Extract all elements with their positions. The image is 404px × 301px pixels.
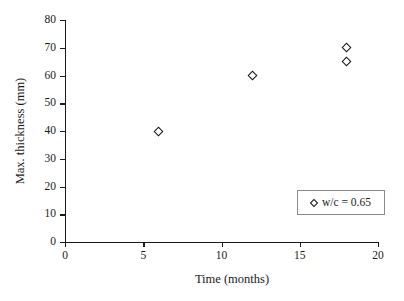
y-tick-label: 30 xyxy=(45,153,57,165)
x-tick-mark xyxy=(143,242,144,247)
y-axis-line xyxy=(65,20,66,243)
open-diamond-marker xyxy=(310,198,318,206)
y-tick-mark xyxy=(60,20,65,21)
x-tick-label: 0 xyxy=(62,250,68,262)
y-tick-label: 60 xyxy=(45,70,57,82)
y-tick-label: 10 xyxy=(45,209,57,221)
x-tick-mark xyxy=(300,242,301,247)
x-tick-label: 5 xyxy=(140,250,146,262)
data-point xyxy=(154,126,164,136)
y-tick-mark xyxy=(60,159,65,160)
y-tick-label: 50 xyxy=(45,98,57,110)
y-tick-mark xyxy=(60,103,65,104)
x-tick-label: 15 xyxy=(294,250,306,262)
y-tick-mark xyxy=(60,48,65,49)
data-point xyxy=(342,57,352,67)
x-tick-mark xyxy=(378,242,379,247)
x-axis-title: Time (months) xyxy=(0,272,404,287)
chart-legend: w/c = 0.65 xyxy=(297,190,385,215)
y-tick-mark xyxy=(60,187,65,188)
y-tick-mark xyxy=(60,76,65,77)
y-tick-label: 70 xyxy=(45,42,57,54)
scatter-chart: 01020304050607080 05101520 Max. thicknes… xyxy=(0,0,404,301)
legend-entry-label: w/c = 0.65 xyxy=(322,197,371,209)
y-tick-label: 40 xyxy=(45,125,57,137)
x-tick-mark xyxy=(222,242,223,247)
y-tick-label: 80 xyxy=(45,14,57,26)
y-axis-title: Max. thickness (mm) xyxy=(13,20,28,242)
y-tick-label: 0 xyxy=(50,236,56,248)
data-point xyxy=(248,71,258,81)
data-point xyxy=(342,43,352,53)
y-tick-mark xyxy=(60,214,65,215)
y-tick-label: 20 xyxy=(45,181,57,193)
x-tick-label: 10 xyxy=(216,250,228,262)
x-tick-label: 20 xyxy=(372,250,384,262)
y-tick-mark xyxy=(60,131,65,132)
x-tick-mark xyxy=(65,242,66,247)
